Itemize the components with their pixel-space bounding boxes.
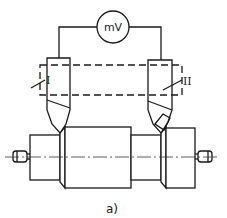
meter-label: mV — [104, 21, 123, 34]
tool-left-label: I — [46, 74, 50, 87]
tool-right: II — [148, 60, 192, 133]
left-wire — [59, 27, 97, 58]
millivoltmeter: mV — [97, 11, 129, 43]
right-wire — [129, 27, 161, 60]
caption: a) — [106, 202, 118, 216]
tool-right-label: II — [183, 75, 192, 88]
workpiece — [30, 127, 195, 188]
left-center — [13, 151, 30, 162]
thermocouple-diagram: mV I II — [0, 0, 227, 218]
leader-i — [31, 80, 45, 88]
right-center — [195, 151, 212, 162]
